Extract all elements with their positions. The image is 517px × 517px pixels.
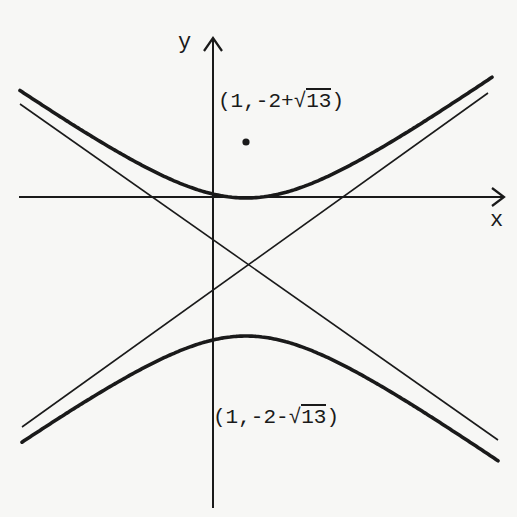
y-axis-label: y: [178, 30, 191, 55]
upper-focus-label: (1,-2+√13): [218, 88, 344, 113]
lower-focus-label-suffix: ): [326, 406, 339, 429]
sqrt-expression: √13: [294, 88, 332, 113]
asymptote-ascending: [22, 93, 488, 427]
lower-branch: [22, 336, 498, 461]
focus-dot: [242, 138, 249, 145]
lower-focus-label: (1,-2-√13): [213, 404, 339, 429]
radicand: 13: [301, 404, 326, 428]
asymptotes: [20, 93, 498, 440]
sqrt-expression: √13: [289, 404, 327, 429]
sqrt-icon: √: [294, 90, 307, 113]
x-axis-label: x: [490, 208, 503, 233]
asymptote-descending: [20, 104, 498, 440]
sqrt-icon: √: [289, 406, 302, 429]
lower-focus-label-prefix: (1,-2-: [213, 406, 289, 429]
upper-focus-label-prefix: (1,-2+: [218, 90, 294, 113]
hyperbola-figure: [0, 0, 517, 517]
radicand: 13: [306, 88, 331, 112]
upper-focus-label-suffix: ): [331, 90, 344, 113]
